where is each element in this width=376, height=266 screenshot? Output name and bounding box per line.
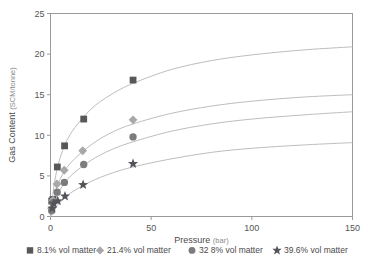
y-axis-tick-label: 15 (34, 90, 44, 100)
x-axis-tick-label: 100 (244, 223, 259, 233)
legend-marker-0 (27, 247, 33, 253)
data-point (54, 164, 61, 171)
series-curve-3 (51, 143, 353, 217)
legend-label-0: 8.1% vol matter (37, 245, 96, 255)
x-axis-tick-label: 0 (48, 223, 53, 233)
legend-marker-3 (272, 245, 281, 254)
legend-label-1: 21.4% vol matter (107, 245, 171, 255)
data-point (129, 133, 136, 140)
x-axis-title: Pressure (bar) (174, 235, 229, 245)
gas-content-pressure-chart: 0510152025050100150Pressure (bar)Gas Con… (0, 0, 376, 266)
y-axis-tick-label: 10 (34, 131, 44, 141)
data-point (61, 142, 68, 149)
series-points-0 (48, 77, 136, 205)
legend-label-3: 39.6% vol matter (284, 245, 348, 255)
y-axis-title: Gas Content (SCM/tonne) (7, 67, 17, 163)
data-point (60, 191, 70, 201)
series-curve-0 (51, 47, 353, 217)
series-points-3 (47, 158, 138, 212)
data-point (130, 77, 137, 84)
data-point (61, 179, 68, 186)
data-point (53, 188, 60, 195)
y-axis-tick-label: 5 (39, 171, 44, 181)
legend-marker-1 (96, 246, 104, 254)
data-point (80, 116, 87, 123)
legend-marker-2 (189, 247, 196, 254)
series-curve-2 (51, 112, 353, 217)
legend-label-2: 32 8% vol matter (199, 245, 263, 255)
y-axis-tick-label: 0 (39, 212, 44, 222)
chart-canvas: 0510152025050100150Pressure (bar)Gas Con… (0, 0, 376, 266)
y-axis-tick-label: 25 (34, 9, 44, 19)
data-point (80, 161, 87, 168)
series-points-1 (47, 115, 137, 212)
x-axis-tick-label: 150 (345, 223, 360, 233)
y-axis-tick-label: 20 (34, 49, 44, 59)
x-axis-tick-label: 50 (146, 223, 156, 233)
series-curve-1 (51, 95, 353, 217)
